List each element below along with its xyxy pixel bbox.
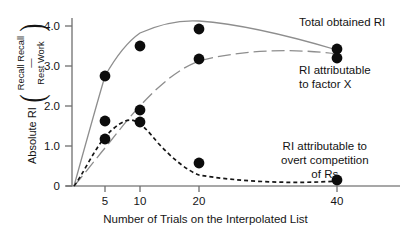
datapoint-total-20 — [194, 24, 205, 35]
y-axis-title-fraction: Recall Recall — Rest Work — [17, 36, 46, 90]
y-axis-title: Absolute RI ( Recall Recall — Rest Work … — [7, 13, 57, 173]
chart-figure: 4.0 3.0 2.0 1.0 0 5 10 20 40 — [0, 0, 411, 236]
datapoint-overt-5 — [100, 116, 111, 127]
x-axis-title: Number of Trials on the Interpolated Lis… — [0, 213, 411, 225]
x-ticklabel-20: 20 — [193, 195, 206, 207]
annotation-factor-x: RI attributable to factor X — [299, 64, 371, 92]
datapoint-factor-5 — [100, 134, 111, 145]
x-ticklabel-40: 40 — [331, 195, 344, 207]
y-axis-paren-open: ( — [16, 95, 49, 103]
chart-plot-area: 4.0 3.0 2.0 1.0 0 5 10 20 40 — [0, 0, 411, 236]
annotation-overt-line3: of Rs — [281, 168, 369, 182]
datapoint-overt-10 — [135, 117, 146, 128]
annotation-factor-line1: RI attributable — [299, 64, 371, 78]
datapoint-overt-20 — [194, 158, 205, 169]
y-axis-paren-close: ) — [16, 23, 49, 31]
datapoint-factor-10 — [135, 105, 146, 116]
annotation-factor-line2: to factor X — [299, 78, 371, 92]
annotation-overt-line2: overt competition — [281, 154, 369, 168]
x-ticklabel-5: 5 — [102, 195, 108, 207]
datapoint-factor-40 — [332, 53, 343, 64]
annotation-total-line1: Total obtained RI — [299, 16, 385, 30]
annotation-overt-line1: RI attributable to — [281, 140, 369, 154]
y-ticklabel-0: 0 — [54, 180, 60, 192]
annotation-overt-competition: RI attributable to overt competition of … — [281, 140, 369, 181]
y-axis-title-main: Absolute RI — [26, 107, 38, 164]
y-axis-fraction-denominator: Rest Work — [37, 41, 47, 84]
datapoint-total-5 — [100, 71, 111, 82]
annotation-total-obtained-ri: Total obtained RI — [299, 16, 385, 30]
datapoint-factor-20 — [194, 54, 205, 65]
datapoint-total-10 — [135, 41, 146, 52]
x-ticklabel-10: 10 — [134, 195, 147, 207]
